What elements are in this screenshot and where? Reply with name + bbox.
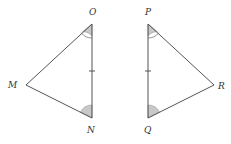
triangle-mon-edges bbox=[26, 24, 92, 118]
congruent-triangles-diagram: O N M P Q R bbox=[0, 0, 231, 144]
triangle-pqr: P Q R bbox=[144, 7, 225, 135]
label-q: Q bbox=[144, 125, 152, 135]
label-r: R bbox=[217, 81, 225, 91]
angle-n-fill bbox=[80, 105, 92, 118]
triangle-mon: O N M bbox=[7, 7, 97, 135]
label-o: O bbox=[89, 7, 97, 17]
label-n: N bbox=[86, 125, 96, 135]
label-m: M bbox=[7, 80, 18, 90]
triangle-pqr-edges bbox=[148, 24, 214, 118]
angle-q-fill bbox=[148, 105, 160, 118]
label-p: P bbox=[144, 7, 152, 17]
